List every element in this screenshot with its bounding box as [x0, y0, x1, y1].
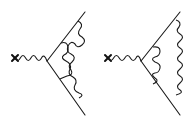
right-diagram [105, 12, 183, 115]
lower-fermion-line [47, 61, 85, 115]
external-photon-line [108, 56, 141, 62]
internal-photon-outer [176, 20, 183, 95]
lower-fermion-line [141, 61, 180, 115]
upper-fermion-line [141, 12, 180, 61]
internal-photon-2 [60, 21, 85, 79]
left-diagram [12, 12, 85, 115]
external-photon-line [15, 56, 47, 62]
feynman-diagrams-canvas [0, 0, 189, 132]
